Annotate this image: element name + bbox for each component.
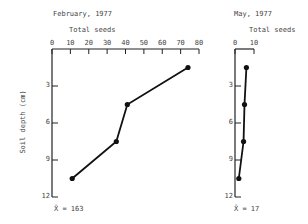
chart-plot-area: 010203040506070803691201036912 bbox=[0, 0, 308, 224]
y-tick-label: 3 bbox=[229, 81, 233, 89]
y-tick-label: 3 bbox=[46, 81, 50, 89]
y-tick-label: 12 bbox=[225, 192, 233, 200]
y-tick-label: 9 bbox=[46, 155, 50, 163]
x-tick-label: 10 bbox=[250, 39, 258, 47]
y-tick-label: 6 bbox=[229, 118, 233, 126]
data-point bbox=[236, 176, 241, 181]
x-tick-label: 30 bbox=[103, 39, 111, 47]
x-tick-label: 20 bbox=[85, 39, 93, 47]
x-tick-label: 10 bbox=[66, 39, 74, 47]
y-tick-label: 9 bbox=[229, 155, 233, 163]
data-point bbox=[125, 102, 130, 107]
data-point bbox=[114, 139, 119, 144]
y-tick-label: 6 bbox=[46, 118, 50, 126]
data-line bbox=[72, 68, 188, 179]
x-tick-label: 0 bbox=[50, 39, 54, 47]
data-point bbox=[244, 65, 249, 70]
x-tick-label: 40 bbox=[121, 39, 129, 47]
data-point bbox=[242, 102, 247, 107]
x-tick-label: 80 bbox=[195, 39, 203, 47]
x-tick-label: 0 bbox=[233, 39, 237, 47]
x-tick-label: 70 bbox=[176, 39, 184, 47]
data-point bbox=[185, 65, 190, 70]
data-point bbox=[70, 176, 75, 181]
x-tick-label: 50 bbox=[140, 39, 148, 47]
data-point bbox=[241, 139, 246, 144]
x-tick-label: 60 bbox=[158, 39, 166, 47]
y-tick-label: 12 bbox=[42, 192, 50, 200]
